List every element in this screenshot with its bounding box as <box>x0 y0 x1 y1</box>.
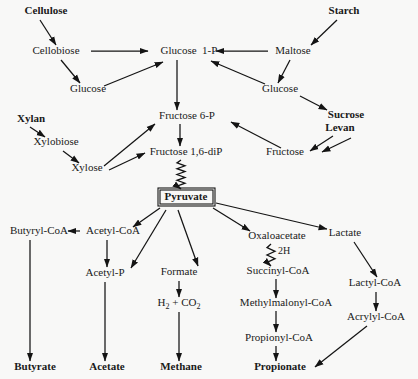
node-succinyl-coa: Succinyl-CoA <box>247 264 310 276</box>
node-fructose-16-dip: Fructose 1,6-diP <box>150 145 223 157</box>
node-lactate: Lactate <box>329 226 361 238</box>
edge-pyruvate-lactate <box>216 203 327 229</box>
edge-glucoseR-glucose1p <box>211 61 265 84</box>
node-methylmalonyl-coa: Methylmalonyl-CoA <box>240 296 332 308</box>
node-formate: Formate <box>161 265 198 277</box>
node-butyryl-coa: Butyryl-CoA <box>10 224 68 236</box>
node-xylose: Xylose <box>71 161 102 173</box>
node-acrylyl-coa: Acrylyl-CoA <box>347 310 405 322</box>
edge-label-oxaloacetate-succinyl: 2H <box>278 245 290 256</box>
node-methane: Methane <box>160 360 202 372</box>
node-xylan: Xylan <box>17 112 45 124</box>
edge-lactate-lactylcoa <box>354 242 377 277</box>
edge-oxaloacetate-succinyl <box>267 244 275 266</box>
edge-acrylylcoa-propionate <box>315 326 367 367</box>
edge-pyruvate-oxaloacetate <box>213 208 250 231</box>
edge-maltose-glucose <box>278 60 290 83</box>
edge-cellobiose-glucose <box>61 60 80 83</box>
node-cellobiose: Cellobiose <box>32 44 79 56</box>
edge-starch-maltose <box>311 20 337 45</box>
node-cellulose: Cellulose <box>25 4 68 16</box>
edge-fructose16dip-pyruvate <box>177 160 185 189</box>
edge-glucoseL-glucose1p <box>104 62 163 86</box>
node-acetyl-p: Acetyl-P <box>85 266 124 278</box>
pathway-svg-canvas: 2H CelluloseStarchCellobioseGlucose 1-PM… <box>0 0 418 379</box>
edge-pyruvate-acetylp <box>131 210 166 268</box>
node-maltose: Maltose <box>275 44 311 56</box>
node-propionate: Propionate <box>254 360 306 372</box>
node-propionyl-coa: Propionyl-CoA <box>245 331 313 343</box>
node-sucrose: Sucrose <box>328 108 365 120</box>
node-butyrate: Butyrate <box>14 360 56 372</box>
node-lactyl-coa: Lactyl-CoA <box>349 276 402 288</box>
node-levan: Levan <box>325 121 354 133</box>
node-acetate: Acetate <box>89 360 125 372</box>
node-glucose-right: Glucose <box>262 82 298 94</box>
edge-pyruvate-formate <box>178 210 198 266</box>
edge-glucoseR-sucrose <box>300 96 327 110</box>
node-xylobiose: Xylobiose <box>33 135 78 147</box>
node-starch: Starch <box>329 4 360 16</box>
edge-cellulose-cellobiose <box>40 20 56 45</box>
node-glucose-left: Glucose <box>70 82 106 94</box>
node-h2-co2: H2 + CO2 <box>158 296 201 311</box>
node-glucose-1-p: Glucose 1-P <box>161 44 218 56</box>
edge-xylose-fructose16dip <box>109 153 145 170</box>
node-acetyl-coa: Acetyl-CoA <box>86 224 140 236</box>
pathway-diagram: 2H CelluloseStarchCellobioseGlucose 1-PM… <box>0 0 418 379</box>
node-pyruvate: Pyruvate <box>165 190 208 202</box>
node-fructose-6-p: Fructose 6-P <box>159 109 215 121</box>
node-oxaloacetate: Oxaloacetate <box>248 229 306 241</box>
node-fructose: Fructose <box>266 145 304 157</box>
